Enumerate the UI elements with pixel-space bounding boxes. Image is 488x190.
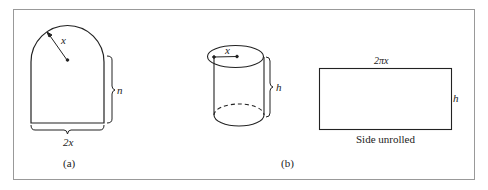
width-label-a: 2x (63, 137, 73, 148)
height-label-unrolled: h (453, 93, 459, 104)
figure-frame (14, 10, 475, 180)
radius-label-b: x (225, 45, 230, 56)
arch-shape (31, 25, 104, 123)
height-brace-a (107, 56, 115, 123)
width-label-unrolled: 2πx (374, 56, 388, 66)
height-brace-b (266, 57, 273, 117)
caption-b: (b) (281, 158, 294, 169)
unrolled-rectangle (320, 69, 452, 130)
width-brace-a (31, 125, 104, 134)
height-label-a: n (117, 85, 123, 96)
radius-label-a: x (61, 35, 66, 46)
unrolled-caption: Side unrolled (356, 134, 415, 145)
height-label-b: h (276, 82, 282, 93)
caption-a: (a) (63, 158, 75, 169)
